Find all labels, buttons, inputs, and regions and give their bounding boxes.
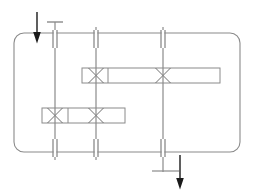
break-bottom-3-gap [162,139,165,157]
break-bottom-1 [53,139,57,157]
break-bottom-1-gap [54,139,57,157]
break-top-3-gap [162,30,165,48]
break-top-1 [53,30,57,48]
canvas-background [0,0,254,190]
break-top-2-gap [95,30,98,48]
diagram-root [0,0,254,190]
break-bottom-3 [161,139,165,157]
break-bottom-2 [94,139,98,157]
piping-schematic [0,0,254,190]
upper-manifold-body [82,68,220,83]
break-bottom-2-gap [95,139,98,157]
break-top-1-gap [54,30,57,48]
break-top-2 [94,30,98,48]
upper-manifold [82,68,220,83]
break-top-3 [161,30,165,48]
